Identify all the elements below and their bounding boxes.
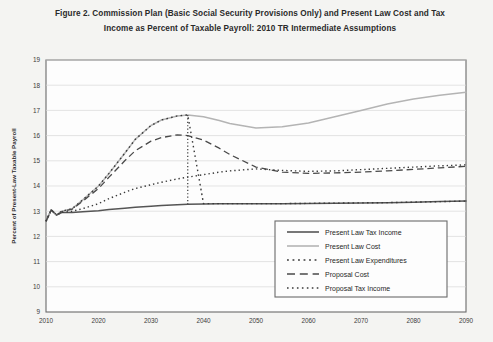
x-tick-label: 2030 (144, 317, 159, 324)
y-tick-label: 10 (33, 283, 41, 290)
x-tick-label: 2070 (354, 317, 369, 324)
x-tick-label: 2040 (196, 317, 211, 324)
legend-label-1: Present Law Tax Income (325, 229, 402, 236)
x-tick-label: 2090 (459, 317, 474, 324)
legend-label-2: Present Law Cost (325, 243, 380, 250)
y-tick-label: 14 (33, 182, 41, 189)
legend-label-3: Present Law Expenditures (325, 257, 407, 265)
y-tick-label: 16 (33, 132, 41, 139)
legend-label-5: Proposal Tax Income (325, 285, 390, 293)
y-tick-label: 15 (33, 157, 41, 164)
y-tick-label: 13 (33, 208, 41, 215)
figure-container: Figure 2. Commission Plan (Basic Social … (0, 0, 493, 342)
x-tick-label: 2020 (91, 317, 106, 324)
x-tick-label: 2010 (39, 317, 54, 324)
x-tick-label: 2050 (249, 317, 264, 324)
x-tick-label: 2080 (406, 317, 421, 324)
y-tick-label: 19 (33, 56, 41, 63)
line-chart: 9101112131415161718192010202020302040205… (0, 0, 493, 342)
y-tick-label: 9 (36, 308, 40, 315)
y-axis-title: Percent of Present-Law Taxable Payroll (10, 128, 17, 244)
y-tick-label: 12 (33, 233, 41, 240)
y-tick-label: 18 (33, 82, 41, 89)
y-tick-label: 11 (33, 258, 40, 265)
y-tick-label: 17 (33, 107, 41, 114)
legend-label-4: Proposal Cost (325, 271, 369, 279)
x-tick-label: 2060 (301, 317, 316, 324)
